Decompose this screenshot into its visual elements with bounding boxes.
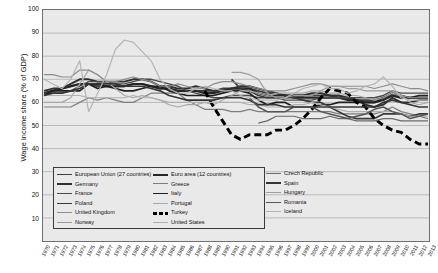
legend-item[interactable]: Italy: [153, 189, 237, 199]
x-axis-tick-labels: 1970197119721973197419751976197719781979…: [42, 244, 430, 273]
legend-label: Spain: [284, 181, 298, 187]
y-tick-30: 30: [32, 169, 39, 176]
legend-item[interactable]: Hungary: [266, 188, 352, 198]
legend-item[interactable]: Romania: [266, 198, 352, 208]
legend-item[interactable]: Poland: [57, 199, 153, 209]
legend-column-2: Euro area (12 countries)GreeceItalyPortu…: [153, 170, 237, 228]
legend-item[interactable]: Germany: [57, 180, 153, 190]
legend-item[interactable]: United Kingdom: [57, 208, 153, 218]
y-tick-10: 10: [32, 215, 39, 222]
legend-item[interactable]: France: [57, 189, 153, 199]
legend-item[interactable]: Norway: [57, 218, 153, 228]
legend-label: France: [75, 191, 92, 197]
legend: European Union (27 countries)GermanyFran…: [53, 167, 265, 229]
legend-label: Italy: [171, 191, 181, 197]
legend-label: Iceland: [284, 209, 302, 215]
legend-item[interactable]: United States: [153, 218, 237, 228]
legend-label: Norway: [75, 220, 94, 226]
legend-item[interactable]: Iceland: [266, 207, 352, 217]
legend-column-1: European Union (27 countries)GermanyFran…: [57, 170, 153, 228]
legend-label: Poland: [75, 201, 92, 207]
legend-label: Portugal: [171, 201, 192, 207]
legend-item[interactable]: European Union (27 countries): [57, 170, 153, 180]
legend-label: Czech Republic: [284, 171, 323, 177]
legend-label: European Union (27 countries): [75, 172, 151, 178]
y-tick-60: 60: [32, 99, 39, 106]
legend-item[interactable]: Czech Republic: [266, 169, 352, 179]
chart-container: Wage income share (% of GDP) 10090807060…: [0, 0, 438, 273]
legend-label: Hungary: [284, 190, 305, 196]
legend-label: Germany: [75, 182, 98, 188]
legend-item[interactable]: Turkey: [153, 208, 237, 218]
y-tick-40: 40: [32, 146, 39, 153]
legend-label: Romania: [284, 200, 306, 206]
legend-item[interactable]: Spain: [266, 179, 352, 189]
legend-label: Greece: [171, 182, 189, 188]
legend-column-3: Czech RepublicSpainHungaryRomaniaIceland: [266, 169, 352, 227]
legend-item[interactable]: Portugal: [153, 199, 237, 209]
legend-label: United States: [171, 220, 205, 226]
legend-item[interactable]: Euro area (12 countries): [153, 170, 237, 180]
legend-label: Turkey: [171, 210, 188, 216]
y-tick-80: 80: [32, 52, 39, 59]
y-tick-50: 50: [32, 122, 39, 129]
y-tick-70: 70: [32, 76, 39, 83]
y-tick-100: 100: [28, 6, 39, 13]
y-axis-tick-labels: 100908070605040302010: [14, 9, 39, 242]
x-tick-1970: 1970: [40, 244, 51, 257]
line-romania: [249, 98, 428, 119]
legend-label: United Kingdom: [75, 210, 115, 216]
y-tick-20: 20: [32, 192, 39, 199]
y-tick-90: 90: [32, 29, 39, 36]
legend-label: Euro area (12 countries): [171, 172, 231, 178]
legend-item[interactable]: Greece: [153, 180, 237, 190]
